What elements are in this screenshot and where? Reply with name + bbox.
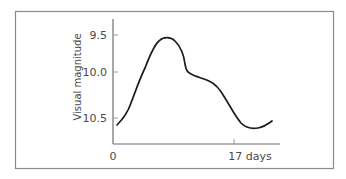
light-curve-chart: 9.5 10.0 10.5 Visual magnitude 0 17 days <box>0 0 346 179</box>
y-tick-label: 10.0 <box>83 66 108 79</box>
y-tick-label: 10.5 <box>83 112 108 125</box>
x-axis: 0 17 days <box>110 139 281 163</box>
y-axis-label: Visual magnitude <box>72 33 83 120</box>
x-tick-label: 17 days <box>228 150 272 163</box>
y-axis: 9.5 10.0 10.5 Visual magnitude <box>72 19 118 144</box>
chart-frame <box>16 12 334 169</box>
light-curve-line <box>117 38 272 129</box>
y-tick-label: 9.5 <box>90 29 108 42</box>
x-tick-label: 0 <box>110 150 117 163</box>
